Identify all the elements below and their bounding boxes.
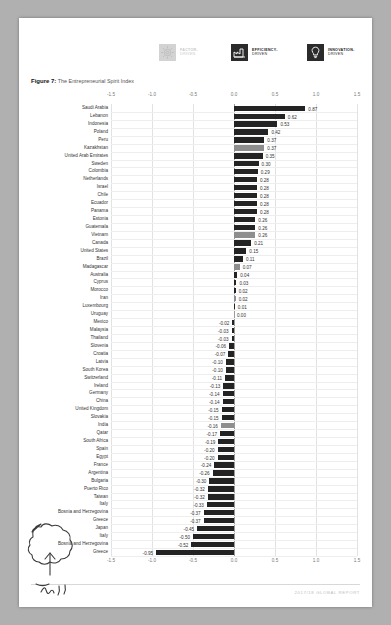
country-label: Latvia	[96, 359, 108, 364]
bar-value-label: 0.37	[267, 146, 276, 151]
bar-value-label: 0.11	[246, 257, 255, 262]
x-axis-tick: 0.0	[231, 558, 237, 563]
bar-value-label: -0.06	[216, 344, 226, 349]
bar: 0.26	[234, 225, 255, 230]
figure-title: The Entrepreneurial Spirit Index	[56, 78, 134, 84]
bar: -0.15	[222, 415, 234, 420]
country-label: Canada	[92, 240, 108, 245]
country-label: Chile	[98, 192, 108, 197]
bar-value-label: -0.16	[207, 424, 217, 429]
bar-value-label: -0.07	[215, 352, 225, 357]
bar: 0.42	[234, 129, 268, 134]
bar: -0.20	[218, 455, 234, 460]
bar-value-label: -0.95	[143, 551, 153, 556]
bar-value-label: 0.30	[262, 162, 271, 167]
bar: 0.62	[234, 114, 285, 119]
country-label: United Kingdom	[75, 406, 108, 411]
country-label: Sweden	[91, 161, 108, 166]
country-label: China	[96, 398, 108, 403]
country-label: Poland	[94, 129, 108, 134]
bar-value-label: -0.52	[178, 543, 188, 548]
bar: 0.35	[234, 153, 263, 158]
country-label: United States	[80, 248, 108, 253]
bar: 0.30	[234, 161, 259, 166]
footer-text: 2017/18 GLOBAL REPORT	[295, 590, 360, 595]
x-axis-tick: 1.5	[354, 558, 360, 563]
bar-value-label: -0.15	[208, 408, 218, 413]
legend-label-innovation-driven: INNOVATION- DRIVEN	[328, 49, 355, 57]
country-label: United Arab Emirates	[65, 153, 108, 158]
bar-value-label: -0.20	[204, 448, 214, 453]
bar-value-label: 0.07	[243, 265, 252, 270]
bar-value-label: 0.28	[260, 186, 269, 191]
country-label: Lebanon	[90, 113, 108, 118]
bar: -0.45	[197, 526, 234, 531]
bar: -0.17	[220, 431, 234, 436]
country-label: Ireland	[94, 383, 108, 388]
bar: 0.37	[234, 137, 264, 142]
country-label: Argentina	[88, 470, 108, 475]
footer-divider	[31, 584, 360, 585]
bar: 0.87	[234, 106, 305, 111]
bar: 0.53	[234, 121, 277, 126]
country-label: Malaysia	[90, 327, 108, 332]
country-label: Italy	[100, 501, 108, 506]
entrepreneurial-spirit-index-chart: -1.5-1.0-0.50.00.51.01.5 Saudi Arabia0.8…	[31, 90, 361, 568]
bar: -0.32	[208, 494, 234, 499]
bar: 0.21	[234, 240, 251, 245]
bar: 0.15	[234, 248, 246, 253]
bar-value-label: 0.28	[260, 178, 269, 183]
country-label: Slovenia	[90, 343, 108, 348]
country-label: Vietnam	[91, 232, 108, 237]
x-axis-tick: 1.5	[354, 92, 360, 97]
x-axis-tick: -1.0	[148, 558, 156, 563]
country-label: Spain	[96, 446, 108, 451]
country-label: Taiwan	[94, 494, 108, 499]
bar-value-label: -0.03	[218, 329, 228, 334]
gear-icon	[159, 44, 176, 61]
country-label: India	[98, 422, 108, 427]
country-label: Panama	[91, 208, 108, 213]
bar: -0.07	[228, 351, 234, 356]
bar-value-label: 0.04	[240, 273, 249, 278]
country-label: Egypt	[96, 454, 108, 459]
country-label: Germany	[89, 390, 108, 395]
x-axis-bottom: -1.5-1.0-0.50.00.51.01.5	[111, 556, 357, 568]
country-label: Kazakhstan	[84, 145, 108, 150]
x-axis-tick: 1.0	[313, 558, 319, 563]
factory-icon	[231, 44, 248, 61]
bar-value-label: -0.15	[208, 416, 218, 421]
country-label: Puerto Rico	[84, 486, 108, 491]
x-axis-tick: 0.5	[272, 558, 278, 563]
country-label: Slovakia	[91, 414, 108, 419]
bar: 0.04	[234, 272, 237, 277]
bar: 0.26	[234, 217, 255, 222]
bar-value-label: -0.14	[209, 392, 219, 397]
bar-value-label: -0.14	[209, 400, 219, 405]
country-label: Thailand	[90, 335, 108, 340]
country-label: Greece	[93, 549, 108, 554]
chart-legend: FACTOR- DRIVEN EFFICIENCY- DRIVEN IN	[19, 38, 372, 72]
bar: -0.33	[207, 502, 234, 507]
country-label: Bosnia and Herzegovina	[58, 541, 108, 546]
x-axis-tick: -1.5	[107, 92, 115, 97]
country-label: Brazil	[97, 256, 109, 261]
bar-value-label: 0.62	[288, 115, 297, 120]
bar-value-label: -0.17	[207, 432, 217, 437]
bar: -0.19	[218, 439, 234, 444]
bar: -0.03	[232, 328, 234, 333]
country-label: Ecuador	[91, 200, 108, 205]
country-label: South Korea	[82, 367, 108, 372]
bar: 0.02	[234, 288, 236, 293]
plot-area: Saudi Arabia0.87Lebanon0.62Indonesia0.53…	[111, 104, 357, 556]
bar: -0.26	[213, 470, 234, 475]
country-label: Qatar	[97, 430, 109, 435]
bar-value-label: -0.37	[190, 519, 200, 524]
bar: 0.07	[234, 264, 240, 269]
bar: -0.50	[193, 534, 234, 539]
figure-caption: Figure 7: The Entrepreneurial Spirit Ind…	[31, 78, 134, 84]
x-axis-tick: -0.5	[189, 558, 197, 563]
bar-value-label: -0.45	[184, 527, 194, 532]
country-label: Israel	[97, 184, 108, 189]
country-label: Croatia	[93, 351, 108, 356]
